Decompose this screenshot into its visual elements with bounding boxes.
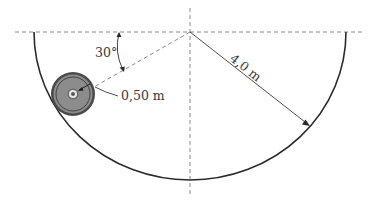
large-radius-label: 4,0 m [227, 51, 264, 85]
small-radius-leader [95, 87, 118, 96]
bowl-wheel-diagram: 30° 4,0 m 0,50 m [0, 0, 375, 202]
angle-arc [117, 33, 123, 70]
wheel [51, 72, 95, 116]
wheel-hub-center [71, 92, 75, 96]
angle-arrowhead-top [117, 32, 122, 37]
small-radius-label: 0,50 m [121, 88, 165, 103]
angle-label: 30° [95, 45, 117, 60]
